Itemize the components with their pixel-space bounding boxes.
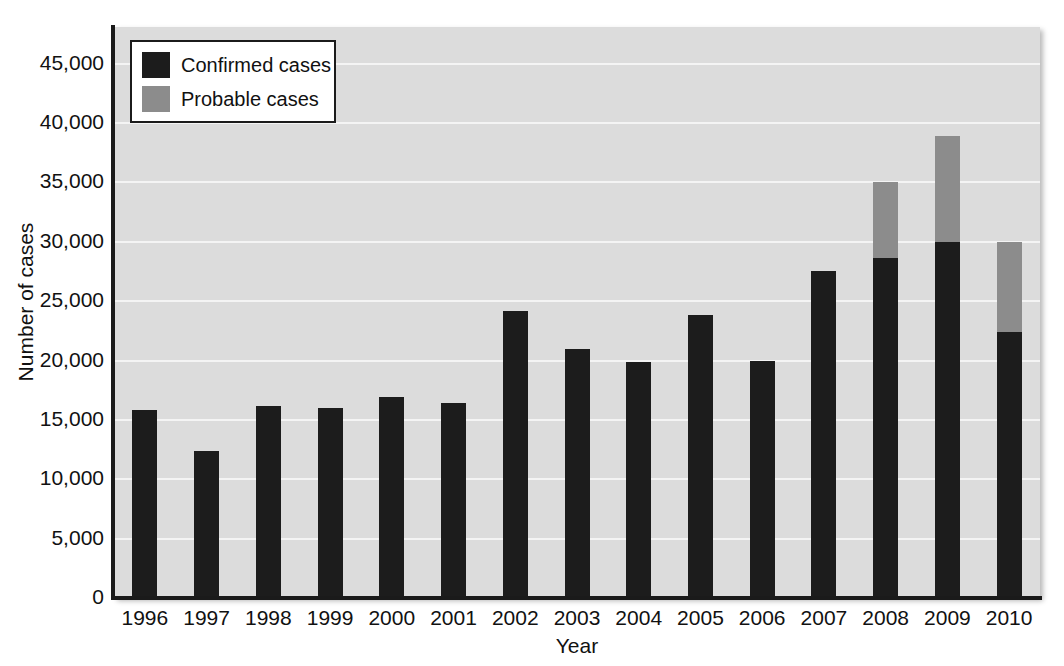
legend-entry-probable: Probable cases — [142, 82, 334, 116]
x-axis-tick-label: 2003 — [546, 606, 608, 630]
x-axis-tick-label: 2000 — [361, 606, 423, 630]
legend-swatch-probable — [142, 86, 170, 112]
legend-label-probable: Probable cases — [181, 89, 319, 109]
x-axis-tick-label: 2005 — [669, 606, 731, 630]
y-axis-tick-label: 5,000 — [0, 527, 104, 548]
chart-legend: Confirmed cases Probable cases — [130, 40, 336, 123]
x-axis-tick-label: 2009 — [916, 606, 978, 630]
x-axis-tick-label: 2002 — [484, 606, 546, 630]
x-axis-tick-label: 2004 — [608, 606, 670, 630]
x-axis-title: Year — [114, 634, 1040, 658]
x-axis-tick-label: 1998 — [237, 606, 299, 630]
x-axis-tick-label: 1999 — [299, 606, 361, 630]
x-axis-tick-label: 2010 — [978, 606, 1040, 630]
x-axis-tick-label: 2007 — [793, 606, 855, 630]
y-axis-title: Number of cases — [14, 202, 38, 402]
x-axis-tick-label: 2001 — [423, 606, 485, 630]
x-axis-tick-label: 2006 — [731, 606, 793, 630]
y-axis-tick-label: 0 — [0, 586, 104, 607]
x-axis-tick-label: 2008 — [855, 606, 917, 630]
x-axis-tick-label: 1996 — [114, 606, 176, 630]
legend-entry-confirmed: Confirmed cases — [142, 48, 334, 82]
y-axis-tick-label: 45,000 — [0, 52, 104, 73]
y-axis-tick-label: 35,000 — [0, 170, 104, 191]
bar-chart-figure: 05,00010,00015,00020,00025,00030,00035,0… — [0, 0, 1064, 666]
legend-swatch-confirmed — [142, 52, 170, 78]
y-axis-tick-label: 10,000 — [0, 467, 104, 488]
legend-label-confirmed: Confirmed cases — [181, 55, 331, 75]
y-axis-tick-label: 15,000 — [0, 408, 104, 429]
x-axis-tick-label: 1997 — [176, 606, 238, 630]
y-axis-tick-label: 40,000 — [0, 111, 104, 132]
